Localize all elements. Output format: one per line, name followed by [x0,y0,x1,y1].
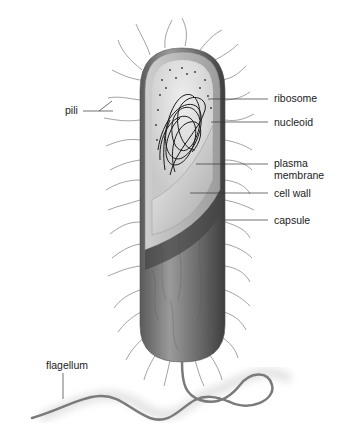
label-ribosome: ribosome [274,93,317,104]
label-plasma-membrane-line2: membrane [274,170,324,181]
label-cell-wall: cell wall [274,188,311,199]
label-pili: pili [65,105,78,116]
label-flagellum: flagellum [46,360,88,371]
label-plasma-membrane-line1: plasma [274,158,308,169]
label-nucleoid: nucleoid [274,117,313,128]
label-capsule: capsule [274,215,310,226]
flagellum-shadow [40,372,290,418]
